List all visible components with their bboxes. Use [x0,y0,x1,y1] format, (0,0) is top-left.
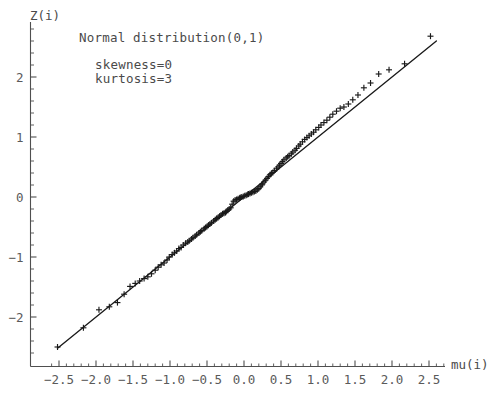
y-tick-label: −2 [2,310,24,325]
annotation-distribution: Normal distribution(0,1) [79,30,264,45]
x-tick-label: −1.5 [118,372,148,387]
data-point [55,344,61,350]
data-point [337,105,343,111]
x-tick-label: 2.5 [418,372,441,387]
data-point [285,154,291,160]
y-tick-label: −1 [2,250,24,265]
data-point [386,67,392,73]
x-tick-label: 1.0 [307,372,330,387]
x-tick-label: 0.0 [233,372,256,387]
data-point [427,33,433,39]
x-tick-label: −0.5 [192,372,222,387]
x-axis-label: mu(i) [451,357,489,372]
data-point [355,92,361,98]
x-tick-label: 2.0 [381,372,404,387]
data-point [368,80,374,86]
y-axis-label: Z(i) [30,8,60,23]
data-point [376,71,382,77]
x-tick-label: −1.0 [155,372,185,387]
data-point [327,114,333,120]
data-point [341,104,347,110]
y-tick-label: 2 [2,70,24,85]
qq-plot-figure: Z(i) mu(i) Normal distribution(0,1) skew… [0,0,504,417]
data-point [334,108,340,114]
chart-canvas [0,0,504,417]
annotation-kurtosis: kurtosis=3 [95,71,172,86]
data-point [345,101,351,107]
data-point [96,307,102,313]
data-point [350,97,356,103]
x-tick-label: −2.5 [44,372,74,387]
data-point [149,271,155,277]
x-tick-label: 0.5 [270,372,293,387]
x-tick-label: 1.5 [344,372,367,387]
data-point [330,111,336,117]
y-tick-label: 1 [2,130,24,145]
data-point [361,85,367,91]
annotation-skewness: skewness=0 [95,57,172,72]
y-tick-label: 0 [2,190,24,205]
x-tick-label: −2.0 [81,372,111,387]
data-point [229,201,235,207]
axes-group [31,22,446,367]
